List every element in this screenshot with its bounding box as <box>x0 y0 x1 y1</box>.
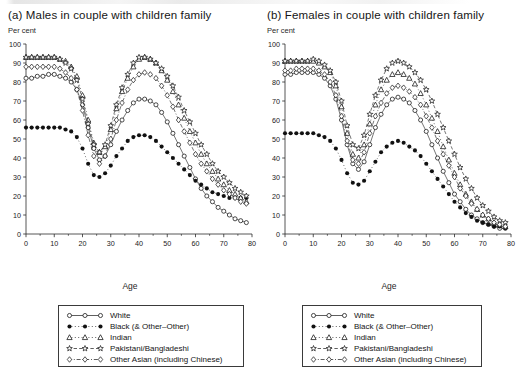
svg-text:30: 30 <box>13 173 21 182</box>
legend-item-black-other-other[interactable]: Black (& Other–Other) <box>309 321 481 332</box>
legend-marker-filled-circle <box>65 321 105 332</box>
legend-item-white[interactable]: White <box>65 310 243 321</box>
legend-item-label: Pakistani/Bangladeshi <box>110 343 189 354</box>
svg-text:40: 40 <box>272 154 280 163</box>
svg-text:30: 30 <box>107 239 115 248</box>
legend-item-indian[interactable]: Indian <box>309 332 481 343</box>
legend-marker-open-circle <box>65 310 105 321</box>
panel-b-plot-area: 010203040506070809010001020304050607080 <box>259 36 519 264</box>
svg-text:70: 70 <box>272 97 280 106</box>
svg-text:60: 60 <box>272 116 280 125</box>
svg-text:80: 80 <box>13 78 21 87</box>
svg-text:60: 60 <box>451 239 459 248</box>
legend-item-pakistani-bangladeshi[interactable]: Pakistani/Bangladeshi <box>309 343 481 354</box>
legend-item-white[interactable]: White <box>309 310 481 321</box>
panel-b-title: (b) Females in couple with children fami… <box>267 9 484 21</box>
svg-text:40: 40 <box>13 154 21 163</box>
charts-container: (a) Males in couple with children family… <box>0 0 521 300</box>
svg-text:80: 80 <box>507 239 515 248</box>
legend-panel-b: WhiteBlack (& Other–Other)IndianPakistan… <box>302 305 482 367</box>
legend-marker-open-circle <box>309 310 349 321</box>
svg-text:10: 10 <box>272 211 280 220</box>
svg-text:70: 70 <box>479 239 487 248</box>
legend-marker-open-diamond <box>65 354 105 365</box>
chart-panel-a: (a) Males in couple with children family… <box>0 0 260 300</box>
svg-text:80: 80 <box>248 239 256 248</box>
svg-text:10: 10 <box>50 239 58 248</box>
svg-text:50: 50 <box>163 239 171 248</box>
legend-item-label: Other Asian (including Chinese) <box>354 354 467 365</box>
legend-marker-open-star <box>309 343 349 354</box>
svg-text:100: 100 <box>268 40 280 49</box>
series-white <box>283 70 507 230</box>
svg-text:20: 20 <box>79 239 87 248</box>
legend-marker-open-diamond <box>309 354 349 365</box>
legend-panel-a: WhiteBlack (& Other–Other)IndianPakistan… <box>58 305 244 367</box>
svg-text:50: 50 <box>13 135 21 144</box>
svg-text:80: 80 <box>272 78 280 87</box>
panel-b-y-axis-unit: Per cent <box>267 26 295 35</box>
svg-text:30: 30 <box>272 173 280 182</box>
panel-a-x-axis-title: Age <box>0 281 260 291</box>
series-other-asian-including-chinese <box>24 64 249 206</box>
panel-a-title: (a) Males in couple with children family <box>8 9 212 21</box>
panel-b-svg: 010203040506070809010001020304050607080 <box>259 36 519 264</box>
legend-item-label: Pakistani/Bangladeshi <box>354 343 433 354</box>
legend-item-indian[interactable]: Indian <box>65 332 243 343</box>
panel-a-svg: 010203040506070809010001020304050607080 <box>0 36 260 264</box>
legend-marker-open-star <box>65 343 105 354</box>
svg-text:50: 50 <box>422 239 430 248</box>
svg-text:40: 40 <box>135 239 143 248</box>
svg-text:20: 20 <box>338 239 346 248</box>
legend-item-other-asian-including-chinese[interactable]: Other Asian (including Chinese) <box>309 354 481 365</box>
svg-text:0: 0 <box>17 230 21 239</box>
panel-a-plot-area: 010203040506070809010001020304050607080 <box>0 36 260 264</box>
svg-text:0: 0 <box>276 230 280 239</box>
svg-text:20: 20 <box>13 192 21 201</box>
legend-item-label: Indian <box>354 332 376 343</box>
chart-panel-b: (b) Females in couple with children fami… <box>259 0 519 300</box>
series-other-asian-including-chinese <box>283 66 508 229</box>
series-pakistani-bangladeshi <box>282 56 508 225</box>
svg-text:50: 50 <box>272 135 280 144</box>
series-white <box>24 72 248 224</box>
legend-item-label: Other Asian (including Chinese) <box>110 354 223 365</box>
svg-text:0: 0 <box>24 239 28 248</box>
svg-text:0: 0 <box>283 239 287 248</box>
panel-a-y-axis-unit: Per cent <box>8 26 36 35</box>
legend-item-other-asian-including-chinese[interactable]: Other Asian (including Chinese) <box>65 354 243 365</box>
legend-marker-filled-circle <box>309 321 349 332</box>
svg-text:10: 10 <box>13 211 21 220</box>
legend-item-label: White <box>110 310 130 321</box>
svg-text:90: 90 <box>13 59 21 68</box>
svg-text:60: 60 <box>192 239 200 248</box>
series-pakistani-bangladeshi <box>23 54 249 198</box>
legend-item-pakistani-bangladeshi[interactable]: Pakistani/Bangladeshi <box>65 343 243 354</box>
svg-text:60: 60 <box>13 116 21 125</box>
svg-text:20: 20 <box>272 192 280 201</box>
series-indian <box>282 58 508 228</box>
legend-item-label: Black (& Other–Other) <box>354 321 433 332</box>
svg-text:10: 10 <box>309 239 317 248</box>
legend-marker-open-triangle <box>309 332 349 343</box>
legend-item-label: White <box>354 310 374 321</box>
legend-item-label: Black (& Other–Other) <box>110 321 189 332</box>
panel-b-x-axis-title: Age <box>259 281 519 291</box>
svg-text:70: 70 <box>220 239 228 248</box>
legend-marker-open-triangle <box>65 332 105 343</box>
svg-text:40: 40 <box>394 239 402 248</box>
svg-text:90: 90 <box>272 59 280 68</box>
svg-text:30: 30 <box>366 239 374 248</box>
legend-item-label: Indian <box>110 332 132 343</box>
legend-item-black-other-other[interactable]: Black (& Other–Other) <box>65 321 243 332</box>
svg-text:100: 100 <box>9 40 21 49</box>
svg-text:70: 70 <box>13 97 21 106</box>
